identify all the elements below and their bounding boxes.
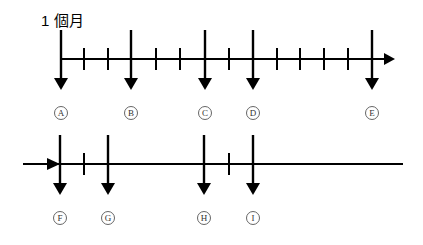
marker-i: I [246, 135, 260, 225]
marker-e: E [365, 30, 379, 120]
marker-label: D [250, 108, 257, 118]
marker-label: C [202, 108, 208, 118]
marker-g: G [101, 135, 115, 225]
period-label: 1 個月 [41, 12, 84, 29]
down-arrow-icon [198, 78, 212, 90]
marker-label: G [105, 213, 112, 223]
down-arrow-icon [246, 183, 260, 195]
down-arrow-icon [197, 183, 211, 195]
down-arrow-icon [246, 78, 260, 90]
top-timeline: ABCDE [54, 30, 395, 120]
marker-label: I [252, 213, 255, 223]
down-arrow-icon [54, 78, 68, 90]
timelines: ABCDEFGHI [23, 30, 403, 225]
marker-label: B [128, 108, 134, 118]
down-arrow-icon [53, 183, 67, 195]
entry-arrowhead-icon [47, 158, 60, 170]
marker-f: F [53, 135, 67, 225]
down-arrow-icon [365, 78, 379, 90]
marker-label: A [58, 108, 65, 118]
bottom-timeline: FGHI [23, 135, 403, 225]
axis-arrowhead-icon [384, 53, 395, 65]
timeline-diagram: 1 個月 ABCDEFGHI [0, 0, 423, 245]
marker-label: H [201, 213, 208, 223]
marker-a: A [54, 30, 68, 120]
marker-label: E [369, 108, 375, 118]
marker-d: D [246, 30, 260, 120]
marker-h: H [197, 135, 211, 225]
marker-label: F [57, 213, 62, 223]
marker-c: C [198, 30, 212, 120]
down-arrow-icon [101, 183, 115, 195]
marker-b: B [124, 30, 138, 120]
down-arrow-icon [124, 78, 138, 90]
